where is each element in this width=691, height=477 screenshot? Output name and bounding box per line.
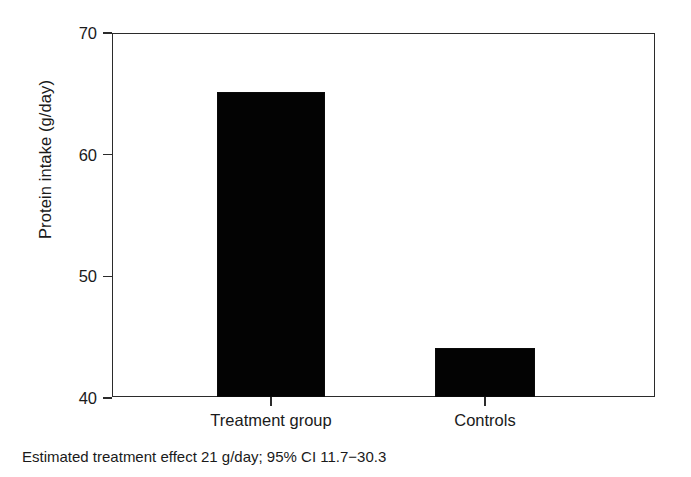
y-tick-mark-60 <box>103 154 112 156</box>
x-tick-mark-treatment-group <box>270 397 272 406</box>
y-tick-label-60: 60 <box>79 144 97 166</box>
x-tick-label-treatment-group: Treatment group <box>161 411 381 430</box>
bar-treatment-group <box>217 92 325 397</box>
y-tick-mark-40 <box>103 397 112 399</box>
figure-caption: Estimated treatment effect 21 g/day; 95%… <box>22 447 386 467</box>
y-tick-mark-70 <box>103 32 112 34</box>
plot-area <box>112 33 655 397</box>
bar-controls <box>435 348 535 397</box>
x-tick-mark-controls <box>484 397 486 406</box>
x-tick-label-controls: Controls <box>375 411 595 430</box>
y-tick-mark-50 <box>103 276 112 278</box>
figure-container: Protein intake (g/day) 70 60 50 40 Treat… <box>0 0 691 477</box>
y-tick-label-70: 70 <box>79 22 97 44</box>
y-tick-label-40: 40 <box>79 387 97 409</box>
y-tick-label-50: 50 <box>79 265 97 287</box>
y-axis-title: Protein intake (g/day) <box>36 10 55 310</box>
